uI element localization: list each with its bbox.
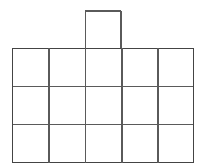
cell-r1c4[interactable] bbox=[121, 48, 157, 86]
cell-r2c3[interactable] bbox=[85, 86, 121, 124]
grid-cells bbox=[12, 48, 194, 163]
net-figure bbox=[0, 0, 203, 168]
net-diagram-canvas bbox=[0, 0, 203, 168]
cell-r1c5[interactable] bbox=[158, 48, 194, 86]
cell-r2c2[interactable] bbox=[48, 86, 84, 124]
cell-r3c5[interactable] bbox=[158, 125, 194, 163]
cell-r2c5[interactable] bbox=[158, 86, 194, 124]
cell-r1c1[interactable] bbox=[12, 48, 48, 86]
cell-r1c3[interactable] bbox=[85, 48, 121, 86]
cell-r1c2[interactable] bbox=[48, 48, 84, 86]
cell-r3c2[interactable] bbox=[48, 125, 84, 163]
cell-r2c4[interactable] bbox=[121, 86, 157, 124]
cell-r3c1[interactable] bbox=[12, 125, 48, 163]
cell-r2c1[interactable] bbox=[12, 86, 48, 124]
cell-r3c4[interactable] bbox=[121, 125, 157, 163]
top-tab-square[interactable] bbox=[85, 11, 121, 48]
cell-r3c3[interactable] bbox=[85, 125, 121, 163]
